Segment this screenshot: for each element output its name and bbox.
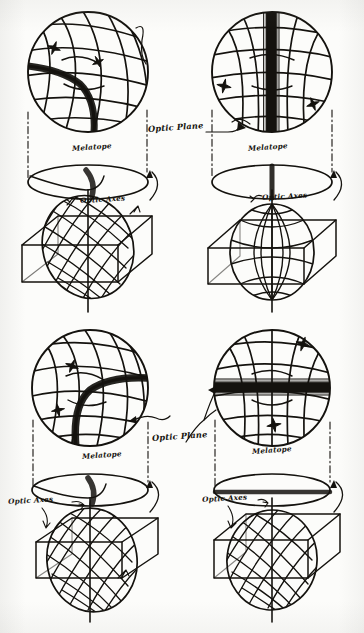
diagram-sheet: Melatope Optic Axes Optic Plane Melatope…: [0, 0, 364, 633]
indicatrix-globe-2: [230, 204, 314, 300]
indicatrix-globe-3: [36, 502, 146, 618]
panel-top-right: [206, 6, 342, 312]
interference-figure-sphere-3: [30, 326, 170, 450]
panel-top-left: [22, 4, 158, 312]
rotation-arrow-3: [146, 480, 159, 512]
diagram-canvas: [0, 0, 364, 633]
panel-bottom-left: [30, 326, 170, 622]
crystal-section-box-3: [36, 518, 158, 578]
crystal-section-box-1: [22, 216, 152, 282]
interference-figure-sphere-1: [22, 4, 150, 138]
rotation-arrow-4: [330, 480, 343, 512]
interference-figure-sphere-2: [208, 6, 336, 138]
panel-bottom-right: [186, 326, 343, 622]
interference-figure-sphere-4: [186, 326, 336, 450]
